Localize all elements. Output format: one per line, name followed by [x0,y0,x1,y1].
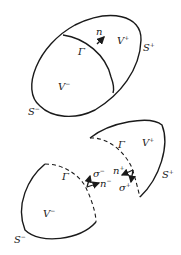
top-interface-gamma [63,35,114,93]
bottom-plus-label-gamma: Γ [117,139,126,150]
top-label-s-plus: S+ [143,41,155,53]
bottom-label-v-plus: V+ [142,136,154,148]
top-normal-arrow [97,37,104,44]
top-label-v-minus: V− [58,80,70,92]
bottom-minus-piece: Γ V− S− σ− n− [14,164,111,245]
label-sigma-plus: σ+ [119,181,131,193]
top-outer-boundary [32,16,141,117]
top-body: n Γ V+ V− S+ S− [28,16,155,117]
n-minus-arrow [87,183,99,187]
bottom-minus-label-gamma: Γ [61,171,70,182]
diagram-canvas: n Γ V+ V− S+ S− Γ V+ S+ n+ σ+ Γ V− S− σ−… [0,0,181,255]
bottom-minus-outer-boundary [22,164,96,239]
sigma-plus-arrow [131,170,133,182]
top-label-n: n [96,26,102,37]
sigma-minus-arrow [87,176,90,187]
top-label-gamma: Γ [77,46,86,57]
bottom-label-s-plus: S+ [162,168,174,180]
top-label-s-minus: S− [28,105,40,117]
bottom-label-s-minus: S− [14,233,26,245]
label-n-minus: n− [100,177,111,189]
bottom-label-v-minus: V− [43,207,55,219]
top-label-v-plus: V+ [117,34,129,46]
